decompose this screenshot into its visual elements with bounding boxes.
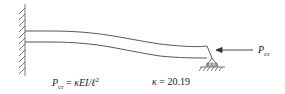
formula-lhs-subscript: cr <box>58 83 63 91</box>
fixed-wall-support <box>19 4 25 76</box>
critical-load-formula: Pcr = κEI/ℓ2 <box>52 76 99 91</box>
kappa-value: κ = 20.19 <box>152 76 190 87</box>
formula-rhs: κEI/ℓ <box>74 77 95 88</box>
buckling-diagram <box>0 0 285 94</box>
kappa-number: 20.19 <box>167 76 190 87</box>
formula-rhs-superscript: 2 <box>95 76 99 84</box>
load-arrow <box>216 48 253 53</box>
load-label: Pcr <box>258 44 270 58</box>
pin-support <box>199 58 225 71</box>
deflected-beam <box>25 31 212 58</box>
kappa-symbol: κ <box>152 76 157 87</box>
load-subscript: cr <box>264 50 269 58</box>
